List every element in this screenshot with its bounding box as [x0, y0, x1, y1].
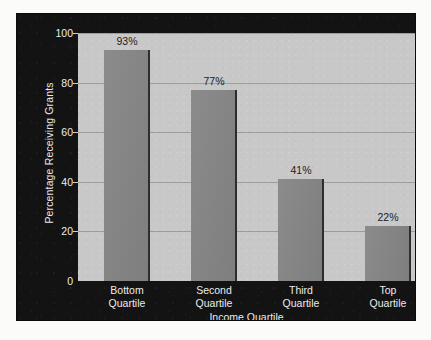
x-category-bottom-quartile: Bottom Quartile	[104, 284, 150, 309]
chart-page: Percentage Receiving Grants 100 80 60 40…	[0, 0, 431, 340]
x-category-second-quartile-line1: Second	[196, 284, 232, 296]
bar-top-quartile[interactable]	[365, 226, 411, 281]
y-tick-label-60: 60	[39, 127, 73, 137]
y-tick-label-80: 80	[39, 78, 73, 88]
bar-third-quartile[interactable]	[278, 179, 324, 281]
x-category-third-quartile-line1: Third	[289, 284, 313, 296]
x-category-bottom-quartile-line1: Bottom	[110, 284, 143, 296]
y-tick-label-100: 100	[39, 28, 73, 38]
x-category-second-quartile-line2: Quartile	[191, 297, 237, 310]
x-category-top-quartile-line2: Quartile	[365, 297, 411, 310]
chart-panel: Percentage Receiving Grants 100 80 60 40…	[17, 14, 415, 320]
x-axis-title: Income Quartile	[78, 311, 415, 320]
y-tick-label-40: 40	[39, 177, 73, 187]
gridline-100	[78, 33, 415, 34]
data-label-bottom-quartile: 93%	[104, 36, 150, 47]
bar-second-quartile[interactable]	[191, 90, 237, 281]
x-category-third-quartile-line2: Quartile	[278, 297, 324, 310]
y-axis-ticks: 100 80 60 40 20 0	[37, 14, 73, 320]
data-label-top-quartile: 22%	[365, 212, 411, 223]
x-axis-categories: Bottom Quartile Second Quartile Third Qu…	[78, 284, 415, 314]
bar-bottom-quartile[interactable]	[104, 50, 150, 281]
x-category-bottom-quartile-line2: Quartile	[104, 297, 150, 310]
x-category-second-quartile: Second Quartile	[191, 284, 237, 309]
x-category-top-quartile-line1: Top	[380, 284, 397, 296]
y-tick-label-20: 20	[39, 226, 73, 236]
x-category-third-quartile: Third Quartile	[278, 284, 324, 309]
x-category-top-quartile: Top Quartile	[365, 284, 411, 309]
data-label-third-quartile: 41%	[278, 165, 324, 176]
plot-area: 93% 77% 41% 22%	[78, 33, 415, 281]
y-tick-label-0: 0	[39, 276, 73, 286]
data-label-second-quartile: 77%	[191, 76, 237, 87]
